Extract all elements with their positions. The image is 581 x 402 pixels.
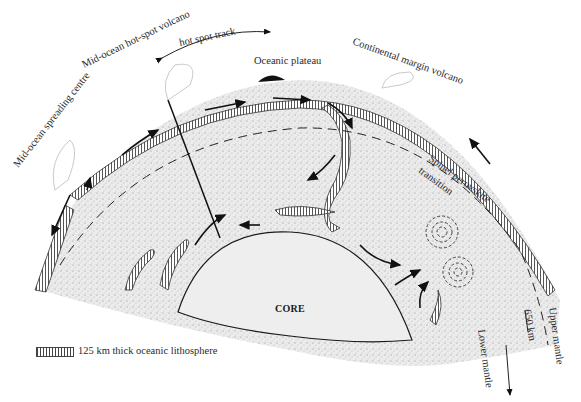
lithosphere-swatch-icon xyxy=(36,347,74,357)
label-hot-spot-track: hot spot track xyxy=(178,25,237,48)
label-mid-ocean-spreading-centre: Mid-ocean spreading centre xyxy=(11,70,92,169)
legend: 125 km thick oceanic lithosphere xyxy=(36,345,218,357)
label-mid-ocean-hot-spot-volcano: Mid-ocean hot-spot volcano xyxy=(80,8,191,70)
label-continental-margin-volcano: Continental margin volcano xyxy=(351,36,465,86)
legend-text: 125 km thick oceanic lithosphere xyxy=(78,345,218,357)
core-label: CORE xyxy=(275,303,305,314)
label-oceanic-plateau: Oceanic plateau xyxy=(254,55,322,66)
mantle-diagram: CORE xyxy=(0,0,581,402)
oceanic-plateau-shape xyxy=(258,75,285,82)
